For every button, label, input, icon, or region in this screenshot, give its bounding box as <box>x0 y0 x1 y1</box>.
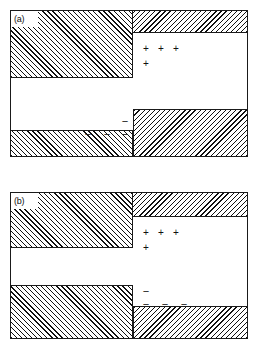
panel-a-negative-sign-4: − <box>121 130 129 138</box>
panel-a-label: (a) <box>11 11 38 27</box>
figure-root: (a) ++++−−−− (b) ++++−−−− <box>0 0 258 343</box>
panel-a-positive-sign-2: + <box>157 45 165 53</box>
panel-a-positive-sign-1: + <box>142 45 150 53</box>
panel-b-negative-sign-3: − <box>161 300 169 308</box>
panel-b-positive-sign-3: + <box>172 229 180 237</box>
panel-a-negative-sign-1: − <box>121 117 129 125</box>
panel-a-negative-sign-2: − <box>84 130 92 138</box>
panel-a-negative-sign-3: − <box>103 130 111 138</box>
panel-a-positive-sign-4: + <box>142 60 150 68</box>
panel-b-upper-right-hatched-region <box>133 193 247 217</box>
panel-b-positive-sign-1: + <box>142 229 150 237</box>
panel-a-positive-sign-3: + <box>172 45 180 53</box>
panel-b-negative-sign-2: − <box>142 300 150 308</box>
panel-b-positive-sign-4: + <box>142 244 150 252</box>
panel-a-lower-left-hatched-region <box>11 130 133 156</box>
panel-b-label: (b) <box>11 193 38 209</box>
panel-b-positive-sign-2: + <box>157 229 165 237</box>
panel-b: (b) ++++−−−− <box>10 192 248 339</box>
panel-b-negative-sign-4: − <box>180 300 188 308</box>
panel-b-lower-right-hatched-region <box>133 306 247 338</box>
panel-a-upper-right-hatched-region <box>133 11 247 33</box>
panel-a-lower-right-hatched-region <box>133 109 247 156</box>
panel-b-negative-sign-1: − <box>142 287 150 295</box>
panel-b-lower-left-hatched-region <box>11 285 133 338</box>
panel-a: (a) ++++−−−− <box>10 10 248 157</box>
